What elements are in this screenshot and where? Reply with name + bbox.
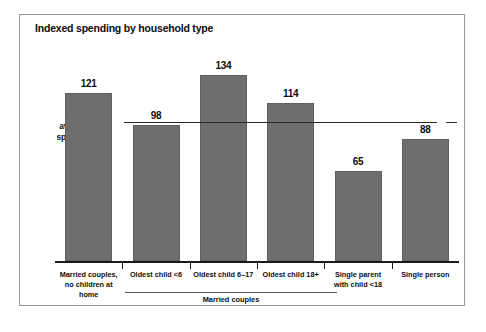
category-label: Oldest child 18+ (257, 270, 324, 280)
group-bracket-label: Married couples (125, 295, 337, 304)
bar-value-label: 121 (59, 78, 119, 89)
bar (133, 125, 180, 261)
category-label-line2: no children at home (55, 280, 122, 300)
bar-value-label: 65 (328, 156, 388, 167)
bar-value-label: 98 (126, 110, 186, 121)
category-label: Single person (392, 270, 459, 280)
category-label-line1: Oldest child 18+ (257, 270, 324, 280)
category-label-line1: Single parent (324, 270, 391, 280)
category-label: Married couples,no children at home (55, 270, 122, 300)
bar-value-label: 114 (261, 88, 321, 99)
bar (267, 103, 314, 261)
x-axis-tick (122, 262, 123, 269)
x-axis-tick (324, 262, 325, 269)
x-axis-tick (190, 262, 191, 269)
reference-line (124, 122, 437, 123)
bar (200, 75, 247, 261)
category-label: Oldest child 6–17 (190, 270, 257, 280)
category-label-line1: Married couples, (55, 270, 122, 280)
bar-value-label: 88 (395, 124, 455, 135)
category-label: Oldest child <6 (122, 270, 189, 280)
group-bracket-rule (125, 292, 337, 293)
category-label-line1: Single person (392, 270, 459, 280)
x-axis-tick (392, 262, 393, 269)
bar (65, 93, 112, 261)
category-label-line1: Oldest child <6 (122, 270, 189, 280)
bar-value-label: 134 (193, 60, 253, 71)
category-label-line1: Oldest child 6–17 (190, 270, 257, 280)
bar (335, 171, 382, 261)
reference-line-end-tick (446, 122, 457, 123)
x-axis-tick (257, 262, 258, 269)
category-label-line2: with child <18 (324, 280, 391, 290)
bar (402, 139, 449, 261)
category-label: Single parentwith child <18 (324, 270, 391, 290)
chart-plot-area: 100 = average spending 121981341146588 M… (19, 14, 465, 306)
